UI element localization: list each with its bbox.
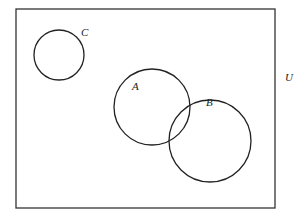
set-a-label: A <box>132 80 139 92</box>
set-c-circle <box>34 30 84 80</box>
universe-label: U <box>285 71 293 83</box>
set-a-circle <box>114 69 190 145</box>
set-b-circle <box>169 100 251 182</box>
venn-diagram <box>0 0 306 220</box>
universe-rectangle <box>16 9 275 208</box>
set-c-label: C <box>81 26 88 38</box>
set-b-label: B <box>206 96 213 108</box>
